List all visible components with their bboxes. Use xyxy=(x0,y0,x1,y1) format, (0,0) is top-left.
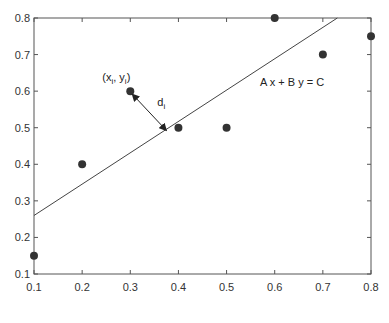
fit-line xyxy=(34,18,337,215)
y-tick-label: 0.3 xyxy=(15,195,30,207)
point-label: (xi, yi) xyxy=(102,71,130,86)
x-axis-ticks: 0.10.20.30.40.50.60.70.8 xyxy=(26,18,378,293)
data-point xyxy=(319,51,327,59)
x-tick-label: 0.3 xyxy=(123,281,138,293)
y-tick-label: 0.2 xyxy=(15,231,30,243)
annotations: (xi, yi) di A x + B y = C xyxy=(102,71,324,130)
data-point xyxy=(126,87,134,95)
data-point xyxy=(271,14,279,22)
x-tick-label: 0.6 xyxy=(267,281,282,293)
fit-line-equation: A x + B y = C xyxy=(260,76,324,88)
x-tick-label: 0.2 xyxy=(74,281,89,293)
data-point xyxy=(30,252,38,260)
x-tick-label: 0.8 xyxy=(363,281,378,293)
y-axis-ticks: 0.10.20.30.40.50.60.70.8 xyxy=(15,12,371,280)
data-point xyxy=(174,124,182,132)
x-tick-label: 0.1 xyxy=(26,281,41,293)
y-tick-label: 0.7 xyxy=(15,49,30,61)
y-tick-label: 0.8 xyxy=(15,12,30,24)
distance-label: di xyxy=(157,96,165,111)
data-points xyxy=(30,14,375,260)
data-point xyxy=(367,32,375,40)
scatter-chart: 0.10.20.30.40.50.60.70.8 0.10.20.30.40.5… xyxy=(0,0,389,323)
fit-line-layer xyxy=(34,18,337,215)
y-tick-label: 0.6 xyxy=(15,85,30,97)
y-tick-label: 0.5 xyxy=(15,122,30,134)
x-tick-label: 0.5 xyxy=(219,281,234,293)
data-point xyxy=(223,124,231,132)
y-tick-label: 0.1 xyxy=(15,268,30,280)
x-tick-label: 0.4 xyxy=(171,281,186,293)
x-tick-label: 0.7 xyxy=(315,281,330,293)
data-point xyxy=(78,160,86,168)
y-tick-label: 0.4 xyxy=(15,158,30,170)
